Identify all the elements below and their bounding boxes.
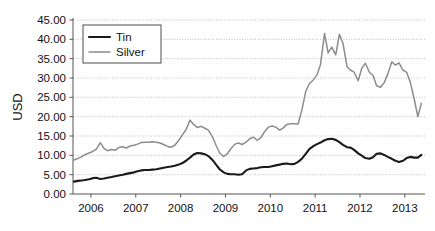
chart-container: 0.005.0010.0015.0020.0025.0030.0035.0040… [0, 0, 435, 231]
y-tick-label-20-00: 20.00 [37, 111, 66, 123]
y-tick-label-10-00: 10.00 [37, 149, 66, 161]
x-tick-label-2011: 2011 [303, 202, 328, 214]
x-tick-label-2007: 2007 [123, 202, 149, 214]
y-tick-label-15-00: 15.00 [37, 130, 66, 142]
x-tick-label-2009: 2009 [213, 202, 239, 214]
chart-legend: TinSilver [83, 25, 161, 63]
x-tick-label-2013: 2013 [392, 202, 418, 214]
y-tick-label-40-00: 40.00 [37, 33, 66, 45]
y-tick-label-0-00: 0.00 [44, 188, 66, 200]
y-axis-title: USD [10, 93, 25, 120]
line-chart: 0.005.0010.0015.0020.0025.0030.0035.0040… [0, 0, 435, 231]
x-tick-label-2010: 2010 [258, 202, 284, 214]
y-axis-title-text: USD [10, 93, 25, 120]
x-tick-label-2008: 2008 [168, 202, 194, 214]
y-tick-label-25-00: 25.00 [37, 91, 66, 103]
x-tick-label-2006: 2006 [78, 202, 104, 214]
y-tick-label-45-00: 45.00 [37, 14, 66, 26]
y-tick-label-5-00: 5.00 [44, 169, 66, 181]
y-tick-label-35-00: 35.00 [37, 53, 66, 65]
x-tick-label-2012: 2012 [347, 202, 373, 214]
y-tick-label-30-00: 30.00 [37, 72, 66, 84]
legend-label-tin: Tin [116, 31, 132, 43]
legend-label-silver: Silver [116, 46, 145, 58]
